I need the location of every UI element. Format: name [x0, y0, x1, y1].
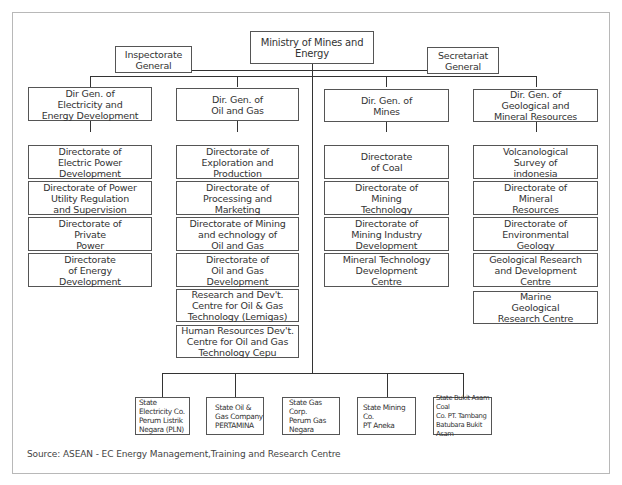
dir-mineral-resources: Directorate of Mineral Resources	[473, 181, 598, 215]
marine-geological-centre: Marine Geological Research Centre	[473, 291, 598, 324]
dir-exploration-production: Directorate of Exploration and Productio…	[176, 145, 299, 179]
inspectorate-general-box: Inspectorate General	[115, 46, 192, 73]
cepu-centre: Human Resources Dev't. Centre for Oil an…	[176, 325, 299, 358]
connector-enterprise-bus	[162, 373, 463, 374]
state-electricity-pln: State Electricity Co. Perum Listrik Nega…	[135, 397, 190, 435]
connector-dg2-units	[237, 120, 238, 132]
geological-research-centre: Geological Research and Development Cent…	[473, 253, 598, 287]
lemigas-centre: Research and Dev't. Centre for Oil & Gas…	[176, 289, 299, 322]
connector-ent2	[235, 373, 236, 397]
connector-dg4	[536, 76, 537, 87]
connector-ent4	[387, 373, 388, 397]
connector-dg2	[237, 76, 238, 87]
dg-mines-box: Dir. Gen. of Mines	[324, 89, 449, 122]
dir-oil-gas-development: Directorate of Oil and Gas Development	[176, 253, 299, 287]
connector-ministry-trunk	[312, 63, 313, 373]
connector-dg1	[90, 76, 91, 87]
state-oil-gas-pertamina: State Oil & Gas Company PERTAMINA	[206, 397, 264, 435]
dg-geology-box: Dir. Gen. of Geological and Mineral Reso…	[473, 89, 598, 122]
mineral-technology-centre: Mineral Technology Development Centre	[324, 253, 449, 287]
dir-processing-marketing: Directorate of Processing and Marketing	[176, 181, 299, 215]
dir-mining-industry-dev: Directorate of Mining Industry Developme…	[324, 217, 449, 251]
connector-dg1-units	[90, 120, 91, 132]
secretariat-general-box: Secretariat General	[427, 47, 499, 74]
connector-ent1	[162, 373, 163, 397]
dir-private-power: Directorate of Private Power	[28, 217, 152, 251]
ministry-box: Ministry of Mines and Energy	[250, 31, 374, 64]
state-bukit-asam: State Bukit Asam Coal Co. PT. Tambang Ba…	[433, 397, 492, 435]
dir-mining-technology: Directorate of Mining Technology	[324, 181, 449, 215]
connector-staff-line	[191, 70, 427, 71]
connector-dg-bus	[90, 76, 536, 77]
state-gas-corp: State Gas Corp. Perum Gas Negara	[282, 397, 340, 435]
dir-environmental-geology: Directorate of Environmental Geology	[473, 217, 598, 251]
source-caption: Source: ASEAN - EC Energy Management,Tra…	[27, 449, 340, 459]
dg-oil-gas-box: Dir. Gen. of Oil and Gas	[176, 88, 299, 121]
dir-power-utility-regulation: Directorate of Power Utility Regulation …	[28, 181, 152, 215]
dir-electric-power-dev: Directorate of Electric Power Developmen…	[28, 145, 152, 179]
dg-electricity-box: Dir Gen. of Electricity and Energy Devel…	[28, 87, 152, 121]
dir-energy-development: Directorate of Energy Development	[28, 253, 152, 287]
connector-dg3	[386, 76, 387, 87]
dir-coal: Directorate of Coal	[324, 145, 449, 179]
dir-mining-technology-oil-gas: Directorate of Mining and echnology of O…	[176, 217, 299, 251]
state-mining-aneka: State Mining Co. PT Aneka	[357, 397, 416, 435]
volcanological-survey: Volcanological Survey of indonesia	[473, 145, 598, 179]
